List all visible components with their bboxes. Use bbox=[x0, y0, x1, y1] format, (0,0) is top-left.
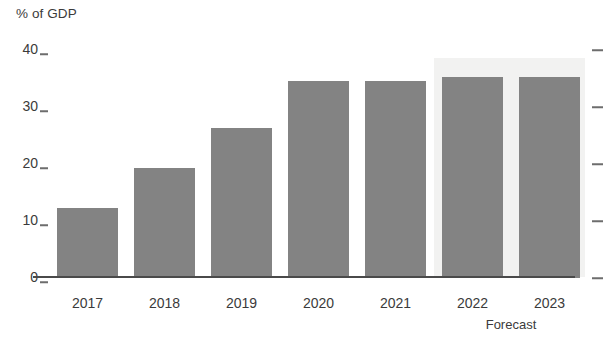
y-tick-mark-left-40 bbox=[40, 53, 48, 55]
bar-2017[interactable] bbox=[57, 208, 118, 278]
y-tick-mark-left-30 bbox=[40, 110, 48, 112]
x-tick-label-2018: 2018 bbox=[134, 295, 195, 311]
bar-2023[interactable] bbox=[519, 77, 580, 278]
y-tick-mark-left-20 bbox=[40, 167, 48, 169]
x-tick-label-2021: 2021 bbox=[365, 295, 426, 311]
x-tick-label-2022: 2022 bbox=[442, 295, 503, 311]
bar-2020[interactable] bbox=[288, 81, 349, 278]
forecast-caption: Forecast bbox=[442, 317, 580, 332]
plot-area bbox=[48, 44, 588, 278]
bar-2019[interactable] bbox=[211, 128, 272, 278]
y-tick-mark-right-30 bbox=[592, 106, 603, 108]
y-tick-mark-left-0 bbox=[40, 281, 48, 283]
x-tick-label-2019: 2019 bbox=[211, 295, 272, 311]
y-tick-mark-right-0 bbox=[592, 277, 603, 279]
y-tick-mark-right-20 bbox=[592, 163, 603, 165]
y-tick-label-10: 10 bbox=[22, 212, 38, 228]
y-tick-label-40: 40 bbox=[22, 41, 38, 57]
bar-chart: % of GDP 010203040 201720182019202020212… bbox=[0, 0, 612, 339]
x-tick-label-2017: 2017 bbox=[57, 295, 118, 311]
x-tick-label-2020: 2020 bbox=[288, 295, 349, 311]
bar-2021[interactable] bbox=[365, 81, 426, 278]
y-axis: 010203040 bbox=[0, 0, 38, 339]
bar-2018[interactable] bbox=[134, 168, 195, 278]
y-tick-mark-left-10 bbox=[40, 224, 48, 226]
x-axis-line bbox=[33, 276, 575, 278]
bar-2022[interactable] bbox=[442, 77, 503, 278]
x-tick-label-2023: 2023 bbox=[519, 295, 580, 311]
y-tick-label-30: 30 bbox=[22, 98, 38, 114]
y-tick-label-20: 20 bbox=[22, 155, 38, 171]
y-tick-mark-right-40 bbox=[592, 49, 603, 51]
y-tick-mark-right-10 bbox=[592, 220, 603, 222]
